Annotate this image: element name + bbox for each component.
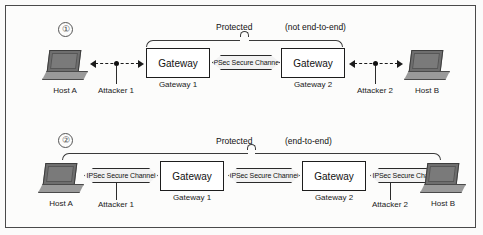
ipsec-channel-label: IPSec Secure Channel (87, 172, 156, 179)
ipsec-channel-hosta-gw1: IPSec Secure Channel (84, 168, 158, 183)
laptop-screen (425, 163, 460, 185)
panel-index-marker-2: ② (58, 133, 73, 148)
host-a-label-2: Host A (32, 199, 90, 208)
gateway-2-box-2: Gateway (302, 161, 366, 191)
laptop-base (420, 184, 466, 193)
ipsec-channel-gw1-gw2-2: IPSec Secure Channel (228, 168, 300, 183)
gateway-1-caption-2: Gateway 1 (160, 193, 224, 202)
laptop-screen (43, 163, 78, 185)
panel-end-to-end: ② Protected (end-to-end) Host A IPSec Se… (0, 0, 483, 235)
protected-qualifier-2: (end-to-end) (285, 136, 332, 146)
protected-label-2: Protected (216, 136, 252, 146)
host-b-laptop-2 (420, 163, 466, 197)
host-b-label-2: Host B (414, 199, 472, 208)
attacker-1-label-2: Attacker 1 (87, 200, 145, 209)
gateway-1-box-2: Gateway (160, 161, 224, 191)
attacker-2-stem-2 (390, 183, 391, 200)
ipsec-channel-label: IPSec Secure Channel (230, 172, 299, 179)
ipsec-scenarios-figure: ① Protected (not end-to-end) Host A Atta… (0, 0, 483, 235)
attacker-1-stem-2 (116, 183, 117, 200)
laptop-base (38, 184, 84, 193)
host-a-laptop-2 (38, 163, 84, 197)
attacker-2-label-2: Attacker 2 (361, 200, 419, 209)
protected-brace-2 (62, 148, 441, 160)
gateway-2-caption-2: Gateway 2 (302, 193, 366, 202)
